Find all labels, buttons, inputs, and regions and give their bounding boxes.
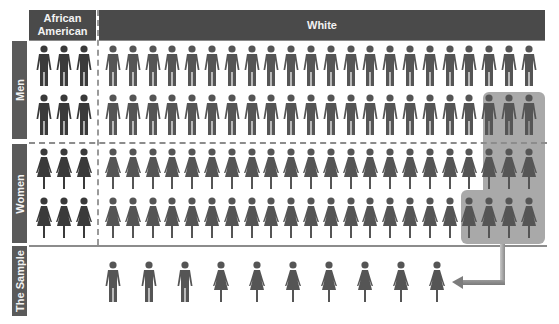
- woman-icon: [461, 148, 477, 190]
- woman-icon: [285, 261, 301, 303]
- man-icon: [461, 45, 477, 87]
- woman-icon: [303, 197, 319, 239]
- woman-icon: [204, 148, 220, 190]
- woman-icon: [429, 261, 445, 303]
- woman-icon: [145, 197, 161, 239]
- man-icon: [224, 45, 240, 87]
- man-icon: [244, 45, 260, 87]
- man-icon: [224, 94, 240, 136]
- woman-icon: [393, 261, 409, 303]
- woman-icon: [224, 148, 240, 190]
- man-icon: [141, 261, 157, 303]
- row-label-women-text: Women: [14, 174, 26, 214]
- man-icon: [422, 94, 438, 136]
- man-icon: [204, 45, 220, 87]
- man-icon: [521, 45, 537, 87]
- man-icon: [362, 94, 378, 136]
- woman-icon: [461, 197, 477, 239]
- man-icon: [501, 45, 517, 87]
- woman-icon: [323, 148, 339, 190]
- woman-icon: [164, 197, 180, 239]
- row-label-men-text: Men: [14, 79, 26, 101]
- column-header-white-label: White: [307, 19, 337, 32]
- man-icon: [105, 261, 121, 303]
- man-icon: [244, 94, 260, 136]
- man-icon: [481, 45, 497, 87]
- man-icon: [263, 45, 279, 87]
- man-icon: [402, 45, 418, 87]
- woman-icon: [422, 148, 438, 190]
- man-icon: [382, 94, 398, 136]
- woman-icon: [382, 148, 398, 190]
- column-header-white: White: [99, 10, 545, 41]
- woman-icon: [244, 197, 260, 239]
- man-icon: [76, 94, 92, 136]
- woman-icon: [224, 197, 240, 239]
- man-icon: [343, 45, 359, 87]
- woman-icon: [343, 197, 359, 239]
- man-icon: [263, 94, 279, 136]
- woman-icon: [213, 261, 229, 303]
- man-icon: [56, 94, 72, 136]
- column-header-african-american: African American: [29, 10, 96, 41]
- man-icon: [343, 94, 359, 136]
- row-label-sample-text: The Sample: [14, 250, 26, 312]
- woman-icon: [105, 148, 121, 190]
- man-icon: [461, 94, 477, 136]
- men-women-divider: [29, 142, 547, 144]
- man-icon: [177, 261, 193, 303]
- man-icon: [105, 94, 121, 136]
- woman-icon: [442, 148, 458, 190]
- man-icon: [362, 45, 378, 87]
- man-icon: [204, 94, 220, 136]
- man-icon: [56, 45, 72, 87]
- woman-icon: [36, 197, 52, 239]
- row-label-men: Men: [12, 41, 27, 139]
- woman-icon: [56, 148, 72, 190]
- man-icon: [184, 45, 200, 87]
- man-icon: [164, 94, 180, 136]
- man-icon: [303, 45, 319, 87]
- woman-icon: [283, 197, 299, 239]
- woman-icon: [184, 197, 200, 239]
- man-icon: [442, 94, 458, 136]
- woman-icon: [357, 261, 373, 303]
- woman-icon: [244, 148, 260, 190]
- woman-icon: [521, 148, 537, 190]
- man-icon: [125, 94, 141, 136]
- woman-icon: [125, 197, 141, 239]
- woman-icon: [76, 197, 92, 239]
- arrow-icon-shaft-horizontal: [462, 280, 505, 285]
- man-icon: [184, 94, 200, 136]
- woman-icon: [303, 148, 319, 190]
- man-icon: [145, 94, 161, 136]
- woman-icon: [164, 148, 180, 190]
- woman-icon: [184, 148, 200, 190]
- woman-icon: [263, 197, 279, 239]
- population-sample-divider: [29, 245, 547, 247]
- column-divider: [97, 10, 99, 245]
- woman-icon: [362, 197, 378, 239]
- man-icon: [481, 94, 497, 136]
- woman-icon: [382, 197, 398, 239]
- woman-icon: [362, 148, 378, 190]
- woman-icon: [105, 197, 121, 239]
- man-icon: [105, 45, 121, 87]
- woman-icon: [204, 197, 220, 239]
- woman-icon: [402, 148, 418, 190]
- arrow-left-icon: [452, 276, 463, 289]
- woman-icon: [402, 197, 418, 239]
- woman-icon: [323, 197, 339, 239]
- row-label-women: Women: [12, 144, 27, 243]
- man-icon: [422, 45, 438, 87]
- row-label-sample: The Sample: [12, 246, 27, 316]
- woman-icon: [249, 261, 265, 303]
- woman-icon: [145, 148, 161, 190]
- man-icon: [36, 94, 52, 136]
- woman-icon: [442, 197, 458, 239]
- man-icon: [164, 45, 180, 87]
- man-icon: [521, 94, 537, 136]
- woman-icon: [283, 148, 299, 190]
- woman-icon: [263, 148, 279, 190]
- man-icon: [36, 45, 52, 87]
